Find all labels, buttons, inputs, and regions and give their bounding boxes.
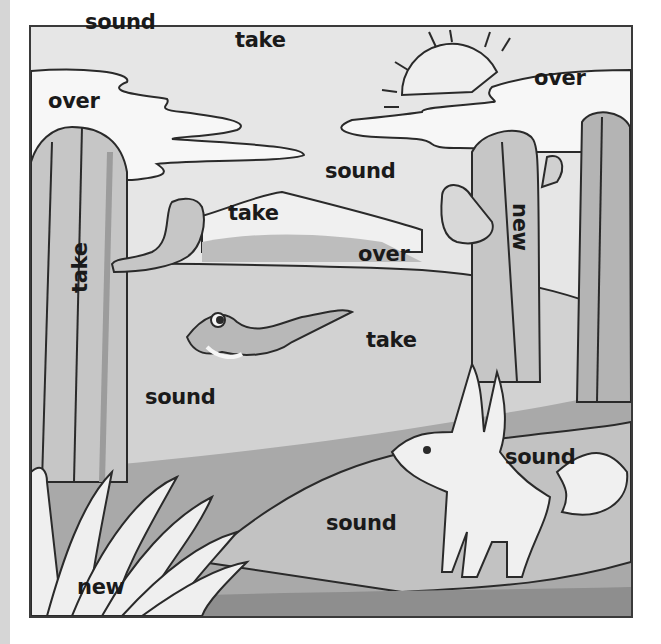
word-take[interactable]: take (228, 203, 279, 224)
word-take[interactable]: take (235, 30, 286, 51)
word-take[interactable]: take (366, 330, 417, 351)
word-sound[interactable]: sound (326, 513, 396, 534)
word-over[interactable]: over (48, 91, 100, 112)
word-sound[interactable]: sound (85, 12, 155, 33)
word-take-vertical[interactable]: take (70, 242, 91, 293)
word-new[interactable]: new (77, 577, 125, 598)
word-sound[interactable]: sound (325, 161, 395, 182)
word-over[interactable]: over (534, 68, 586, 89)
word-new-vertical[interactable]: new (509, 203, 530, 251)
page-edge-strip (0, 0, 10, 644)
word-sound[interactable]: sound (505, 447, 575, 468)
word-over[interactable]: over (358, 244, 410, 265)
word-sound[interactable]: sound (145, 387, 215, 408)
